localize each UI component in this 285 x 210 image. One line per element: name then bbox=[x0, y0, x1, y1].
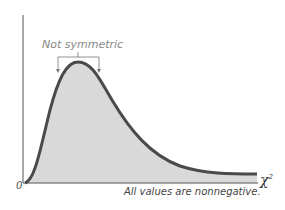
chi-square-diagram bbox=[0, 0, 285, 210]
x-axis-label: χ2 bbox=[260, 172, 273, 188]
arrow-down-icon bbox=[97, 69, 101, 73]
origin-label: 0 bbox=[16, 180, 22, 191]
superscript-two: 2 bbox=[268, 173, 272, 181]
not-symmetric-label: Not symmetric bbox=[42, 38, 123, 51]
nonnegative-note: All values are nonnegative. bbox=[124, 186, 261, 197]
arrow-down-icon bbox=[56, 69, 60, 73]
